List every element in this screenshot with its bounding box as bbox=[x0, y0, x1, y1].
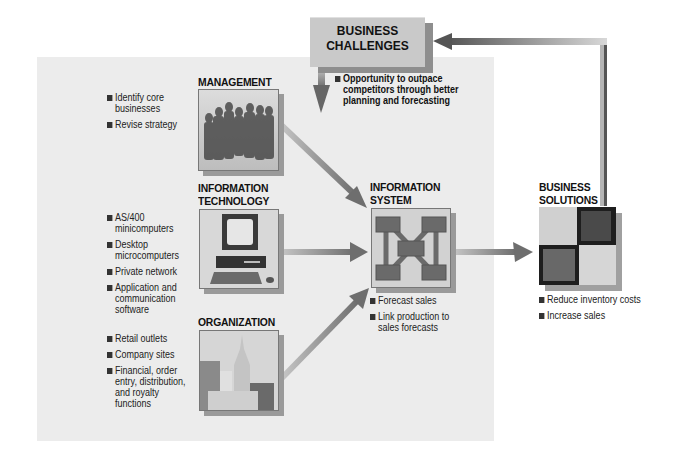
list-item: Private network bbox=[107, 266, 184, 277]
bullet-square-icon bbox=[107, 242, 112, 248]
bullet-text: Opportunity to outpace competitors throu… bbox=[343, 73, 459, 106]
bullet-text: Reduce inventory costs bbox=[547, 294, 641, 305]
bullet-square-icon bbox=[107, 215, 112, 221]
bullet-square-icon bbox=[539, 297, 544, 303]
bullet-square-icon bbox=[370, 298, 375, 304]
network-nodes-image bbox=[371, 208, 451, 288]
technology-title: INFORMATION TECHNOLOGY bbox=[198, 182, 269, 207]
city-buildings-image bbox=[199, 330, 279, 411]
list-item: Company sites bbox=[107, 349, 193, 360]
title-line: BUSINESS bbox=[539, 181, 598, 194]
list-item: Forecast sales bbox=[370, 295, 460, 306]
bullet-text: Application and communication software bbox=[115, 282, 177, 315]
bullet-square-icon bbox=[107, 352, 112, 358]
checkerboard-icon bbox=[539, 207, 616, 285]
list-item: Link production to sales forecasts bbox=[370, 311, 460, 333]
buildings-icon bbox=[200, 331, 278, 410]
list-item: Retail outlets bbox=[107, 333, 193, 344]
bullet-text: Increase sales bbox=[547, 310, 605, 321]
checkerboard-image bbox=[539, 207, 616, 285]
management-to-system-arrow bbox=[278, 122, 367, 208]
people-group-icon bbox=[199, 90, 278, 170]
bullet-square-icon bbox=[107, 368, 112, 374]
management-bullets: Identify core businesses Revise strategy bbox=[107, 92, 179, 135]
bullet-square-icon bbox=[107, 122, 112, 128]
people-group-image bbox=[198, 89, 279, 171]
computer-icon bbox=[200, 210, 278, 288]
list-item: Desktop microcomputers bbox=[107, 239, 184, 261]
list-item: Reduce inventory costs bbox=[539, 294, 665, 305]
business-solutions-title: BUSINESS SOLUTIONS bbox=[539, 181, 598, 206]
bullet-text: Revise strategy bbox=[115, 119, 177, 130]
list-item: Financial, order entry, distribution, an… bbox=[107, 365, 193, 409]
bullet-square-icon bbox=[370, 314, 375, 320]
challenges-bullets: Opportunity to outpace competitors throu… bbox=[335, 73, 475, 111]
list-item: Identify core businesses bbox=[107, 92, 179, 114]
bullet-text: AS/400 minicomputers bbox=[115, 212, 174, 234]
bullet-text: Retail outlets bbox=[115, 333, 167, 344]
list-item: AS/400 minicomputers bbox=[107, 212, 184, 234]
bullet-text: Private network bbox=[115, 266, 177, 277]
title-line: SYSTEM bbox=[370, 194, 440, 207]
information-system-title: INFORMATION SYSTEM bbox=[370, 181, 440, 206]
bullet-text: Desktop microcomputers bbox=[115, 239, 179, 261]
challenges-down-arrow bbox=[313, 67, 330, 113]
bullet-square-icon bbox=[107, 336, 112, 342]
technology-to-system-arrow bbox=[279, 242, 368, 262]
title-line: CHALLENGES bbox=[310, 39, 425, 54]
title-line: SOLUTIONS bbox=[539, 194, 598, 207]
management-title: MANAGEMENT bbox=[198, 76, 272, 89]
bullet-text: Link production to sales forecasts bbox=[378, 311, 449, 333]
bullet-square-icon bbox=[107, 269, 112, 275]
bullet-text: Financial, order entry, distribution, an… bbox=[115, 365, 185, 409]
network-icon bbox=[372, 209, 450, 287]
bullet-square-icon bbox=[335, 76, 340, 82]
title-line: INFORMATION bbox=[198, 182, 269, 195]
title-line: TECHNOLOGY bbox=[198, 195, 269, 208]
bullet-text: Identify core businesses bbox=[115, 92, 164, 114]
bullet-square-icon bbox=[539, 313, 544, 319]
list-item: Revise strategy bbox=[107, 119, 179, 130]
list-item: Opportunity to outpace competitors throu… bbox=[335, 73, 475, 106]
bullet-text: Forecast sales bbox=[378, 295, 437, 306]
information-system-bullets: Forecast sales Link production to sales … bbox=[370, 295, 460, 338]
title-line: BUSINESS bbox=[310, 24, 425, 39]
organization-to-system-arrow bbox=[280, 288, 369, 380]
bullet-square-icon bbox=[107, 285, 112, 291]
organization-title: ORGANIZATION bbox=[198, 316, 275, 329]
bullet-text: Company sites bbox=[115, 349, 175, 360]
list-item: Application and communication software bbox=[107, 282, 184, 315]
business-solutions-bullets: Reduce inventory costs Increase sales bbox=[539, 294, 665, 326]
title-line: INFORMATION bbox=[370, 181, 440, 194]
desktop-computer-image bbox=[199, 209, 279, 289]
system-to-solutions-arrow bbox=[452, 242, 533, 262]
bullet-square-icon bbox=[107, 95, 112, 101]
business-challenges-title: BUSINESS CHALLENGES bbox=[310, 24, 425, 54]
organization-bullets: Retail outlets Company sites Financial, … bbox=[107, 333, 193, 414]
list-item: Increase sales bbox=[539, 310, 665, 321]
technology-bullets: AS/400 minicomputers Desktop microcomput… bbox=[107, 212, 184, 320]
